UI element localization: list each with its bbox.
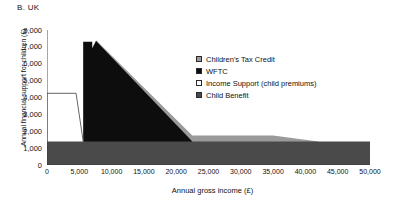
legend-swatch-icon xyxy=(196,92,202,98)
legend-swatch-icon xyxy=(196,56,202,62)
x-tick-label: 20,000 xyxy=(165,167,186,176)
series-area xyxy=(47,141,370,165)
chart-panel: B. UK Annual financial support for child… xyxy=(0,0,405,204)
legend-item: WFTC xyxy=(196,66,316,77)
x-axis-label: Annual gross income (£) xyxy=(40,186,385,195)
x-tick-label: 10,000 xyxy=(101,167,122,176)
y-tick-label: 1,000 xyxy=(23,144,42,153)
y-tick-label: 4,000 xyxy=(23,93,42,102)
x-tick-label: 45,000 xyxy=(327,167,348,176)
legend-swatch-icon xyxy=(196,68,202,74)
y-tick-label: 2,000 xyxy=(23,127,42,136)
panel-title: B. UK xyxy=(17,3,39,12)
legend-item: Children's Tax Credit xyxy=(196,54,316,65)
x-tick-label: 5,000 xyxy=(71,167,89,176)
legend-label: Income Support (child premiums) xyxy=(206,79,316,88)
legend-label: Children's Tax Credit xyxy=(206,55,275,64)
x-tick-label: 40,000 xyxy=(295,167,316,176)
chart-legend: Children's Tax CreditWFTCIncome Support … xyxy=(196,54,316,102)
x-tick-label: 30,000 xyxy=(230,167,251,176)
legend-label: Child Benefit xyxy=(206,91,249,100)
y-tick-label: 3,000 xyxy=(23,110,42,119)
x-tick-label: 25,000 xyxy=(198,167,219,176)
x-tick-label: 50,000 xyxy=(359,167,380,176)
y-tick-label: 7,000 xyxy=(23,42,42,51)
y-tick-label: 5,000 xyxy=(23,76,42,85)
x-tick-label: 15,000 xyxy=(133,167,154,176)
legend-item: Income Support (child premiums) xyxy=(196,78,316,89)
y-tick-label: 6,000 xyxy=(23,59,42,68)
x-axis-tick-labels: 05,00010,00015,00020,00025,00030,00035,0… xyxy=(0,167,405,181)
x-tick-label: 35,000 xyxy=(262,167,283,176)
y-tick-label: 8,000 xyxy=(23,26,42,35)
x-tick-label: 0 xyxy=(45,167,49,176)
legend-item: Child Benefit xyxy=(196,90,316,101)
legend-swatch-icon xyxy=(196,80,202,86)
legend-label: WFTC xyxy=(206,67,228,76)
y-axis-tick-labels: 01,0002,0003,0004,0005,0006,0007,0008,00… xyxy=(4,24,42,171)
